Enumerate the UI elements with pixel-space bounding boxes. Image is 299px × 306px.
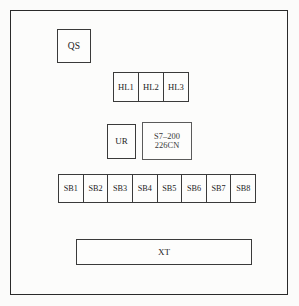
component-label-sb8: SB8 [236, 184, 250, 193]
component-label-hl1: HL1 [118, 82, 134, 92]
component-label-hl3: HL3 [168, 82, 184, 92]
component-sb4-breaker[interactable]: SB4 [133, 175, 158, 202]
component-label-sb2: SB2 [88, 184, 102, 193]
component-sb2-breaker[interactable]: SB2 [84, 175, 109, 202]
component-label-sb7: SB7 [212, 184, 226, 193]
component-xt-terminal-block[interactable]: XT [76, 239, 252, 265]
component-label-qs: QS [68, 41, 80, 52]
indicator-lamp-strip: HL1 HL2 HL3 [113, 72, 189, 102]
component-ur-relay[interactable]: UR [107, 124, 136, 159]
component-sb7-breaker[interactable]: SB7 [207, 175, 232, 202]
panel-enclosure-frame: QS HL1 HL2 HL3 UR S7–200 226CN SB1 [10, 10, 288, 295]
component-sb1-breaker[interactable]: SB1 [59, 175, 84, 202]
component-sb6-breaker[interactable]: SB6 [182, 175, 207, 202]
plc-label-line2: 226CN [155, 141, 180, 150]
component-label-sb1: SB1 [64, 184, 78, 193]
component-sb8-breaker[interactable]: SB8 [231, 175, 255, 202]
diagram-canvas: QS HL1 HL2 HL3 UR S7–200 226CN SB1 [0, 0, 299, 306]
component-sb3-breaker[interactable]: SB3 [108, 175, 133, 202]
component-label-hl2: HL2 [143, 82, 159, 92]
component-label-sb5: SB5 [162, 184, 176, 193]
component-label-sb6: SB6 [187, 184, 201, 193]
component-sb5-breaker[interactable]: SB5 [158, 175, 183, 202]
component-hl2-indicator-lamp[interactable]: HL2 [139, 73, 164, 101]
component-label-ur: UR [115, 136, 128, 146]
plc-label-line1: S7–200 [154, 132, 180, 141]
component-label-sb3: SB3 [113, 184, 127, 193]
component-plc-controller[interactable]: S7–200 226CN [142, 122, 192, 160]
component-hl1-indicator-lamp[interactable]: HL1 [114, 73, 139, 101]
component-label-sb4: SB4 [138, 184, 152, 193]
component-qs-disconnect-switch[interactable]: QS [57, 29, 91, 63]
breaker-strip: SB1 SB2 SB3 SB4 SB5 SB6 SB7 SB8 [58, 174, 256, 203]
component-label-xt: XT [158, 247, 170, 257]
component-hl3-indicator-lamp[interactable]: HL3 [164, 73, 188, 101]
